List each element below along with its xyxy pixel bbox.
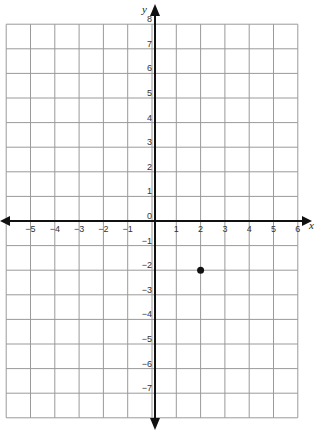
y-tick-label: 3 — [147, 137, 152, 147]
plotted-points — [197, 267, 204, 274]
x-tick-label: −2 — [98, 224, 108, 234]
x-tick-label: −4 — [50, 224, 60, 234]
y-tick-label: 7 — [147, 39, 152, 49]
origin-label: 0 — [147, 211, 152, 221]
plotted-point — [197, 267, 204, 274]
x-axis-label: x — [308, 219, 314, 231]
y-tick-label: 4 — [147, 113, 152, 123]
x-tick-label: −1 — [123, 224, 133, 234]
y-axis-label: y — [141, 3, 147, 15]
axes — [0, 4, 312, 430]
x-tick-label: −5 — [25, 224, 35, 234]
y-tick-label: −3 — [142, 285, 152, 295]
y-tick-label: −5 — [142, 334, 152, 344]
y-tick-label: 1 — [147, 186, 152, 196]
y-tick-label: −2 — [142, 260, 152, 270]
y-tick-label: 5 — [147, 88, 152, 98]
y-tick-label: −7 — [142, 383, 152, 393]
y-tick-label: 2 — [147, 162, 152, 172]
y-tick-label: −4 — [142, 309, 152, 319]
x-tick-label: −3 — [74, 224, 84, 234]
y-tick-label: 8 — [147, 14, 152, 24]
x-tick-label: 3 — [222, 224, 227, 234]
coordinate-plane: xy−5−4−3−2−112345687654321−1−2−3−4−5−6−7… — [0, 0, 316, 431]
y-axis-down-arrow-icon — [150, 418, 160, 430]
x-tick-label: 2 — [198, 224, 203, 234]
y-tick-label: −6 — [142, 359, 152, 369]
x-tick-label: 4 — [247, 224, 252, 234]
y-tick-label: −1 — [142, 236, 152, 246]
x-tick-label: 5 — [271, 224, 276, 234]
x-tick-label: 6 — [295, 224, 300, 234]
x-tick-label: 1 — [174, 224, 179, 234]
tick-labels: xy−5−4−3−2−112345687654321−1−2−3−4−5−6−7… — [25, 3, 314, 393]
x-axis-left-arrow-icon — [0, 216, 10, 226]
y-tick-label: 6 — [147, 63, 152, 73]
